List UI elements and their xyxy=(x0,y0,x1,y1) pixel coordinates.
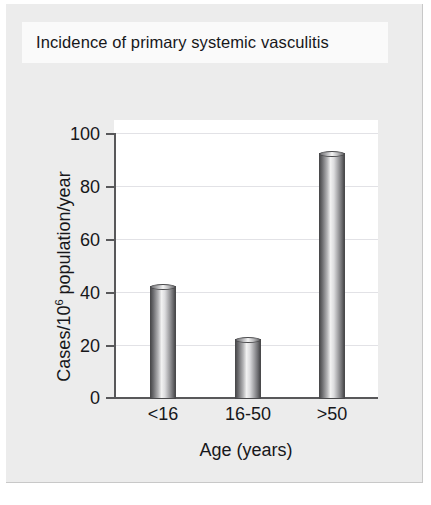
x-tick-label-2: >50 xyxy=(277,404,387,425)
bar-gt50[interactable] xyxy=(319,153,345,399)
y-axis-label-prefix: Cases/10 xyxy=(54,306,74,382)
bar-16-50[interactable] xyxy=(235,339,261,399)
figure-root: Incidence of primary systemic vasculitis… xyxy=(0,0,431,505)
y-tick-0 xyxy=(106,397,115,399)
chart-card: Incidence of primary systemic vasculitis… xyxy=(6,4,423,483)
y-axis-line xyxy=(114,133,116,399)
gridline-100 xyxy=(116,133,378,134)
bar-top-cap xyxy=(150,284,176,290)
x-axis-label: Age (years) xyxy=(114,440,378,461)
y-tick-40 xyxy=(106,292,115,294)
y-axis-label-suffix: population/year xyxy=(54,171,74,299)
y-axis-label: Cases/106 population/year xyxy=(54,127,75,427)
y-tick-100 xyxy=(106,133,115,135)
y-tick-20 xyxy=(106,345,115,347)
plot-area: 100 80 60 40 20 0 Cases/106 population/y… xyxy=(6,4,423,483)
bar-top-cap xyxy=(319,151,345,157)
bar-lt16[interactable] xyxy=(150,286,176,399)
y-tick-80 xyxy=(106,186,115,188)
y-tick-60 xyxy=(106,239,115,241)
y-axis-label-exponent: 6 xyxy=(53,299,65,305)
bar-top-cap xyxy=(235,337,261,343)
